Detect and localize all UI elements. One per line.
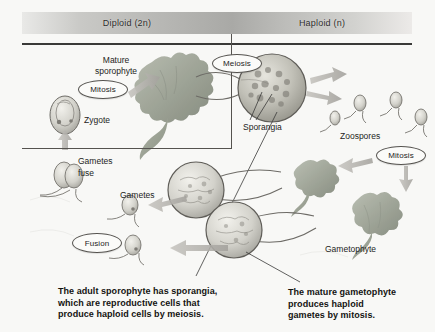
caption-sporophyte-line1: The adult sporophyte has sporangia, <box>58 286 217 298</box>
band-haploid: Haploid (n) <box>232 12 412 34</box>
label-gametes-fuse-line1: Gametes <box>78 155 113 167</box>
divider-top-horizontal <box>22 43 412 45</box>
stage-fusion: Fusion <box>72 233 122 253</box>
diagram-artwork <box>0 0 435 332</box>
caption-sporophyte: The adult sporophyte has sporangia, whic… <box>58 286 217 321</box>
label-gametes-fuse-line2: fuse <box>78 167 113 179</box>
mature-sporophyte-art <box>134 53 213 160</box>
band-haploid-label: Haploid (n) <box>299 18 345 28</box>
stage-mitosis-right-label: Mitosis <box>388 151 414 160</box>
label-gametophyte: Gametophyte <box>325 244 376 255</box>
stage-mitosis-right: Mitosis <box>376 146 426 165</box>
gametophyte-magnifier-lower <box>206 202 316 282</box>
divider-vertical <box>231 34 232 149</box>
caption-sporophyte-line3: produce haploid cells by meiosis. <box>58 309 217 321</box>
stage-mitosis-left: Mitosis <box>78 80 128 99</box>
caption-gametophyte-line3: gametes by mitosis. <box>288 310 396 322</box>
label-mature-sporophyte-line1: Mature <box>95 55 137 66</box>
stage-meiosis-label: Meiosis <box>223 59 251 68</box>
caption-gametophyte-line1: The mature gametophyte <box>288 287 396 299</box>
divider-middle-horizontal <box>22 148 232 149</box>
label-gametes: Gametes <box>120 190 155 201</box>
stage-meiosis: Meiosis <box>212 54 262 73</box>
label-mature-sporophyte-line2: sporophyte <box>95 66 137 77</box>
label-sporangia: Sporangia <box>243 122 282 133</box>
zygote-cell-art <box>50 96 80 134</box>
caption-sporophyte-line2: which are reproductive cells that <box>58 298 217 310</box>
band-diploid-label: Diploid (2n) <box>103 18 151 28</box>
label-zoospores: Zoospores <box>340 131 380 142</box>
stage-mitosis-left-label: Mitosis <box>90 85 116 94</box>
label-zygote: Zygote <box>84 115 110 126</box>
label-gametes-fuse: Gametes fuse <box>78 155 113 179</box>
caption-gametophyte-line2: produces haploid <box>288 299 396 311</box>
label-mature-sporophyte: Mature sporophyte <box>95 55 137 77</box>
arrow-sporangium-to-zoospores <box>306 67 347 105</box>
band-diploid: Diploid (2n) <box>22 12 232 34</box>
life-cycle-figure: Diploid (2n) Haploid (n) Mature sporophy… <box>0 0 435 332</box>
caption-gametophyte: The mature gametophyte produces haploid … <box>288 287 396 322</box>
stage-fusion-label: Fusion <box>85 239 110 248</box>
